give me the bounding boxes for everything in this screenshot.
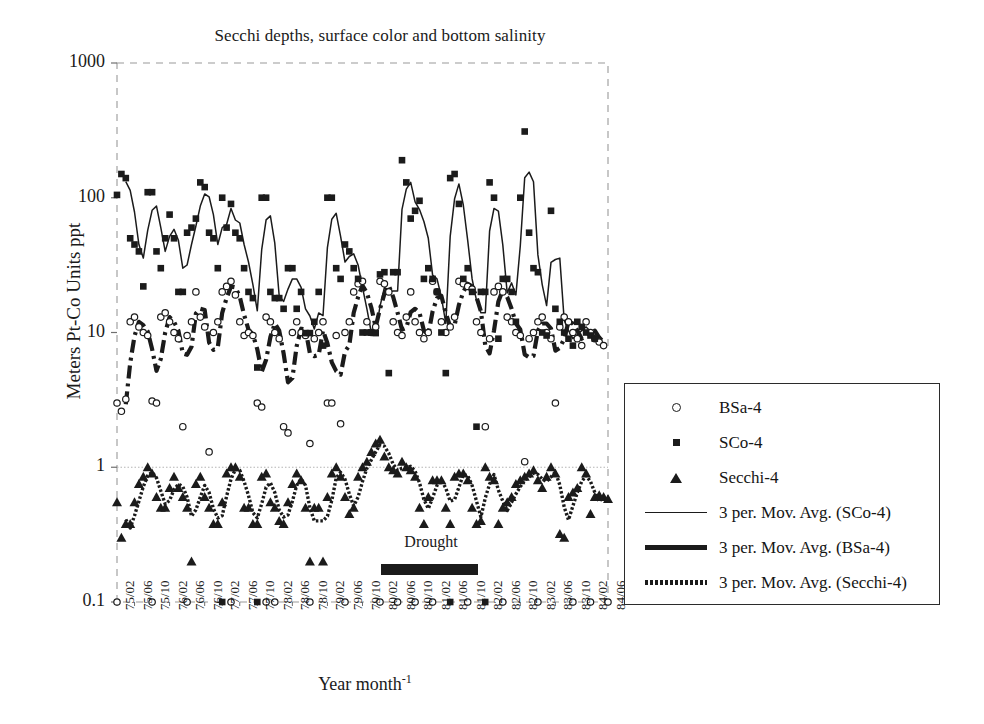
data-point-sco-4 (473, 423, 480, 430)
data-point-sco-4 (114, 192, 121, 199)
data-point-bsa-4 (197, 314, 203, 320)
data-point-sco-4 (346, 248, 353, 255)
data-point-secchi-4 (586, 509, 596, 518)
data-point-sco-4 (570, 342, 577, 349)
data-point-bsa-4 (311, 336, 317, 342)
data-point-bsa-4 (171, 329, 177, 335)
data-point-secchi-4 (182, 503, 192, 512)
legend-item[interactable]: 3 per. Mov. Avg. (SCo-4) (625, 495, 939, 530)
x-axis-tick-label: 80/02 (385, 580, 401, 610)
y-axis-tick-label: 0.1 (35, 590, 105, 611)
data-point-bsa-4 (206, 449, 212, 455)
legend-key (639, 580, 713, 585)
x-axis-tick-label: 82/10 (525, 580, 541, 610)
x-axis-tick-label: 83/10 (578, 580, 594, 610)
data-point-sco-4 (289, 265, 296, 272)
data-point-sco-4 (236, 235, 243, 242)
x-axis-tick-label: 83/06 (560, 580, 576, 610)
legend-key (639, 403, 713, 412)
data-point-secchi-4 (305, 556, 315, 565)
data-point-sco-4 (329, 194, 336, 201)
data-point-sco-4 (486, 179, 493, 186)
data-point-sco-4 (193, 215, 200, 222)
data-point-sco-4 (434, 289, 441, 296)
data-point-secchi-4 (116, 533, 126, 542)
data-point-sco-4 (153, 248, 160, 255)
legend-key (639, 512, 713, 513)
data-point-sco-4 (399, 157, 406, 164)
data-point-secchi-4 (331, 462, 341, 471)
chart-figure: Secchi depths, surface color and bottom … (0, 0, 984, 724)
moving-average-line (126, 284, 604, 405)
x-axis-tick-label: 78/10 (315, 580, 331, 610)
data-point-bsa-4 (486, 336, 492, 342)
data-point-bsa-4 (153, 400, 159, 406)
data-point-bsa-4 (188, 319, 194, 325)
data-point-sco-4 (535, 269, 542, 276)
data-point-sco-4 (337, 276, 344, 283)
data-point-bsa-4 (425, 329, 431, 335)
data-point-bsa-4 (250, 332, 256, 338)
data-point-sco-4 (320, 342, 327, 349)
x-axis-title-exponent: -1 (402, 672, 412, 686)
data-point-sco-4 (592, 335, 599, 342)
filled-triangle-icon (670, 473, 682, 483)
data-point-sco-4 (552, 306, 559, 313)
data-point-bsa-4 (259, 404, 265, 410)
data-point-secchi-4 (419, 519, 429, 528)
data-point-secchi-4 (349, 503, 359, 512)
data-point-bsa-4 (316, 329, 322, 335)
data-point-sco-4 (548, 208, 555, 215)
data-point-bsa-4 (412, 319, 418, 325)
x-axis-tick-label: 78/02 (280, 580, 296, 610)
x-axis-tick-label: 80/10 (420, 580, 436, 610)
drought-annotation-bar (381, 564, 478, 575)
data-point-sco-4 (482, 289, 489, 296)
legend-item[interactable]: BSa-4 (625, 390, 939, 425)
drought-annotation-label: Drought (381, 533, 481, 551)
data-point-secchi-4 (493, 519, 503, 528)
legend-item[interactable]: 3 per. Mov. Avg. (BSa-4) (625, 530, 939, 565)
data-point-bsa-4 (337, 421, 343, 427)
data-point-sco-4 (403, 179, 410, 186)
data-point-secchi-4 (143, 462, 153, 471)
x-axis-tick-label: 77/02 (227, 580, 243, 610)
data-point-bsa-4 (237, 319, 243, 325)
legend-item[interactable]: SCo-4 (625, 425, 939, 460)
data-point-sco-4 (386, 370, 393, 377)
legend-item[interactable]: 3 per. Mov. Avg. (Secchi-4) (625, 565, 939, 600)
data-point-bsa-4 (123, 396, 129, 402)
data-point-secchi-4 (379, 452, 389, 461)
data-point-secchi-4 (445, 519, 455, 528)
y-axis-tick-label: 10 (35, 321, 105, 342)
x-axis-tick-label: 82/06 (508, 580, 524, 610)
data-point-sco-4 (557, 319, 564, 326)
data-point-bsa-4 (421, 336, 427, 342)
x-axis-tick-label: 81/02 (438, 580, 454, 610)
x-axis-tick-label: 84/02 (595, 580, 611, 610)
data-point-sco-4 (263, 194, 270, 201)
x-axis-title: Year month-1 (245, 672, 485, 695)
data-point-sco-4 (315, 289, 322, 296)
data-point-sco-4 (469, 289, 476, 296)
data-point-bsa-4 (210, 329, 216, 335)
legend-item[interactable]: Secchi-4 (625, 460, 939, 495)
data-point-sco-4 (166, 211, 173, 218)
data-point-sco-4 (495, 335, 502, 342)
solid-line-icon (645, 512, 707, 513)
x-axis-tick-label: 81/06 (455, 580, 471, 610)
data-point-bsa-4 (447, 324, 453, 330)
chart-legend: BSa-4SCo-4Secchi-43 per. Mov. Avg. (SCo-… (624, 383, 940, 605)
data-point-sco-4 (543, 332, 550, 339)
data-point-sco-4 (460, 276, 467, 283)
data-point-sco-4 (350, 265, 357, 272)
x-axis-tick-label: 79/06 (350, 580, 366, 610)
data-point-sco-4 (333, 265, 340, 272)
y-axis-tick-label: 100 (35, 186, 105, 207)
data-point-bsa-4 (517, 332, 523, 338)
data-point-sco-4 (131, 241, 138, 248)
data-point-bsa-4 (180, 424, 186, 430)
data-point-bsa-4 (539, 314, 545, 320)
data-point-sco-4 (162, 235, 169, 242)
baseline-point-circle (114, 599, 120, 605)
